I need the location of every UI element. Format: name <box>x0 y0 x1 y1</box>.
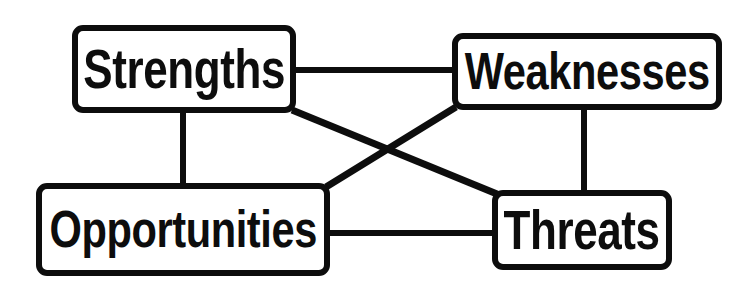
swot-node-opportunities[interactable]: Opportunities <box>36 183 330 276</box>
swot-node-opportunities-label: Opportunities <box>49 205 317 255</box>
swot-node-threats[interactable]: Threats <box>492 190 672 270</box>
swot-node-strengths[interactable]: Strengths <box>72 25 296 113</box>
swot-node-weaknesses[interactable]: Weaknesses <box>452 33 722 110</box>
connector-weaknesses-opportunities <box>326 107 456 187</box>
swot-node-weaknesses-label: Weaknesses <box>465 47 710 97</box>
swot-diagram: Strengths Weaknesses Opportunities Threa… <box>0 0 751 300</box>
swot-node-threats-label: Threats <box>504 204 660 257</box>
swot-node-strengths-label: Strengths <box>83 43 285 96</box>
connector-strengths-threats <box>292 110 497 194</box>
